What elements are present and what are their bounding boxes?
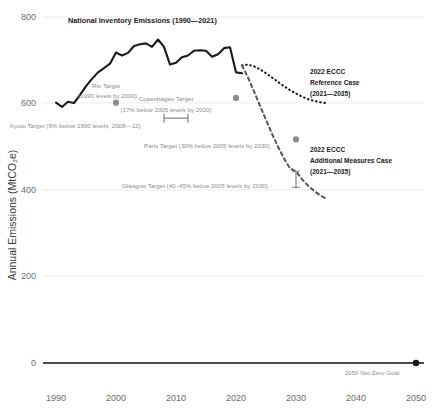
reference-case-label-line3: (2021—2035) — [310, 90, 350, 98]
x-tick-2010: 2010 — [166, 393, 186, 403]
y-tick-400: 400 — [21, 185, 36, 195]
chart-canvas: 800 600 400 200 0 Annual Emissions (MtCO… — [0, 0, 436, 419]
copenhagen-target-label-line2: (17% below 2005 levels by 2020) — [120, 106, 211, 113]
kyoto-target-range-bar — [164, 114, 188, 123]
y-tick-200: 200 — [21, 271, 36, 281]
x-tick-1990: 1990 — [46, 393, 66, 403]
paris-target-label: Paris Target (30% below 2005 levels by 2… — [144, 142, 270, 149]
y-tick-600: 600 — [21, 98, 36, 108]
copenhagen-target-marker — [233, 95, 239, 101]
additional-measures-label-line3: (2021—2035) — [310, 168, 350, 176]
net-zero-goal-label: 2050 Net-Zero Goal — [345, 369, 400, 376]
rio-target-marker — [113, 100, 119, 106]
reference-case-label-line2: Reference Case — [310, 79, 360, 86]
additional-measures-label-line1: 2022 ECCC — [310, 146, 345, 153]
reference-case-label-line1: 2022 ECCC — [310, 68, 345, 75]
net-zero-goal-marker — [413, 360, 420, 367]
kyoto-target-label: Kyoto Target (6% below 1990 levels, 2008… — [10, 122, 141, 129]
y-axis-ticks: 800 600 400 200 0 — [21, 12, 36, 368]
rio-target-label-line2: (1990 levels by 2000) — [78, 92, 137, 99]
paris-target-marker — [293, 136, 299, 142]
y-tick-800: 800 — [21, 12, 36, 22]
x-tick-2040: 2040 — [346, 393, 366, 403]
additional-measures-label-line2: Additional Measures Case — [310, 157, 392, 164]
series-label-national-inventory: National Inventory Emissions (1990—2021) — [68, 16, 217, 25]
y-axis-title: Annual Emissions (MtCO₂e) — [6, 150, 18, 281]
copenhagen-target-label-line1: Copenhagen Target — [139, 95, 194, 102]
x-tick-2020: 2020 — [226, 393, 246, 403]
x-tick-2000: 2000 — [106, 393, 126, 403]
x-tick-2050: 2050 — [406, 393, 426, 403]
y-tick-0: 0 — [31, 358, 36, 368]
rio-target-label-line1: Rio Target — [92, 82, 120, 89]
glasgow-target-label: Glasgow Target (40–45% below 2005 levels… — [122, 182, 268, 189]
x-tick-2030: 2030 — [286, 393, 306, 403]
x-axis-ticks: 1990 2000 2010 2020 2030 2040 2050 — [46, 393, 426, 403]
emissions-chart: 800 600 400 200 0 Annual Emissions (MtCO… — [0, 0, 436, 419]
